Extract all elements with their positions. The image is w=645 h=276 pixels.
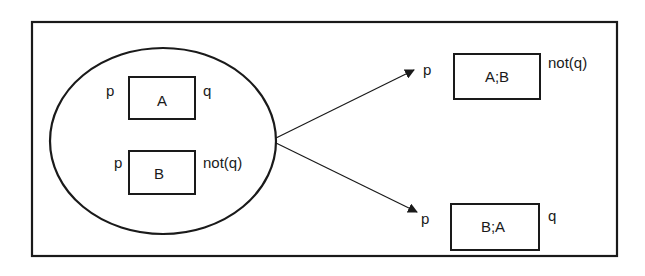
composition-ellipse [50, 48, 276, 234]
diagram-canvas: A p q B p not(q) A;B p not(q) B;A p q [0, 0, 645, 276]
box-a-precondition: p [106, 82, 114, 99]
box-a-group: A p q [106, 77, 211, 119]
box-ab-postcondition: not(q) [548, 54, 587, 71]
outer-frame [32, 22, 617, 256]
arrow-to-ba [276, 143, 417, 212]
box-ab-label: A;B [485, 68, 509, 85]
box-b-group: B p not(q) [114, 151, 242, 194]
box-ba-postcondition: q [548, 207, 556, 224]
outcome-ab-group: A;B p not(q) [423, 54, 587, 99]
box-b-precondition: p [114, 154, 122, 171]
box-ab-precondition: p [423, 61, 431, 78]
arrow-to-ab [276, 70, 414, 138]
box-ba-label: B;A [481, 218, 505, 235]
box-a-label: A [157, 92, 167, 109]
box-b-postcondition: not(q) [203, 154, 242, 171]
box-ba-precondition: p [421, 210, 429, 227]
outcome-ba-group: B;A p q [421, 204, 556, 250]
box-b-label: B [154, 165, 164, 182]
box-a-postcondition: q [203, 82, 211, 99]
